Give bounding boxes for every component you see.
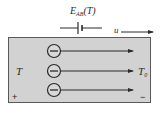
electron-row-2 (48, 65, 134, 78)
emf-label: EAB(T) (70, 6, 96, 17)
emf-argument: (T) (83, 5, 95, 16)
velocity-label: u (114, 26, 119, 35)
cold-side-temperature-label: T0 (138, 66, 147, 78)
minus-sign: − (140, 93, 145, 102)
cold-temp-subscript: 0 (144, 72, 147, 78)
plus-sign: + (12, 93, 17, 102)
diagram-graphics (0, 0, 160, 114)
electron-row-1 (48, 45, 134, 58)
hot-side-temperature-label: T (16, 66, 22, 77)
electron-row-3 (48, 84, 134, 97)
battery-icon (60, 22, 102, 34)
